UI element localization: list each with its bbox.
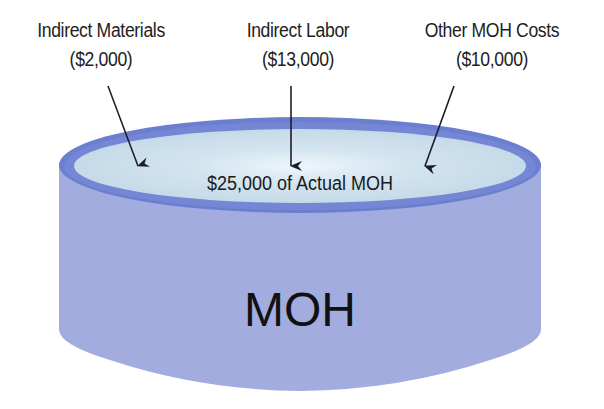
input-name: Indirect Labor xyxy=(210,16,386,45)
input-label-indirect-labor: Indirect Labor ($13,000) xyxy=(210,16,386,74)
input-label-indirect-materials: Indirect Materials ($2,000) xyxy=(13,16,189,74)
cylinder-title: MOH xyxy=(190,282,410,338)
actual-moh-total-label: $25,000 of Actual MOH xyxy=(165,170,435,196)
input-amount: ($10,000) xyxy=(404,45,580,74)
input-name: Indirect Materials xyxy=(13,16,189,45)
input-amount: ($2,000) xyxy=(13,45,189,74)
input-amount: ($13,000) xyxy=(210,45,386,74)
moh-diagram: Indirect Materials ($2,000) Indirect Lab… xyxy=(0,0,604,409)
input-label-other-moh-costs: Other MOH Costs ($10,000) xyxy=(404,16,580,74)
input-name: Other MOH Costs xyxy=(404,16,580,45)
